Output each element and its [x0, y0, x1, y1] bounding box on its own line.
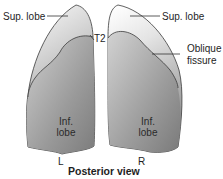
lungs-illustration	[0, 0, 223, 179]
left-inf-lobe-label-line2: lobe	[57, 127, 76, 138]
t2-landmark-label: T2	[94, 33, 106, 44]
right-inf-lobe-label-line1: Inf.	[141, 116, 155, 127]
left-side-label: L	[58, 156, 64, 167]
lung-diagram-posterior-view: Sup. lobe T2 Sup. lobe Oblique fissure I…	[0, 0, 223, 179]
oblique-fissure-label: Oblique fissure	[187, 43, 221, 67]
right-inf-lobe-label: Inf. lobe	[133, 116, 163, 138]
oblique-fissure-label-line1: Oblique	[187, 43, 221, 54]
diagram-title: Posterior view	[68, 166, 140, 177]
right-inf-lobe-label-line2: lobe	[139, 127, 158, 138]
left-inf-lobe-label-line1: Inf.	[59, 116, 73, 127]
right-sup-lobe-label: Sup. lobe	[162, 11, 204, 22]
left-inf-lobe-label: Inf. lobe	[51, 116, 81, 138]
left-sup-lobe-label: Sup. lobe	[3, 11, 45, 22]
oblique-fissure-label-line2: fissure	[187, 55, 216, 66]
